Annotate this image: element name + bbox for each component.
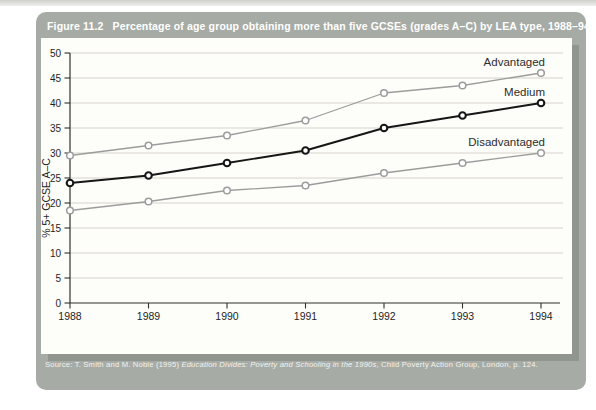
y-tick-label: 30: [50, 148, 62, 159]
data-point-advantaged: [67, 152, 74, 159]
x-tick-label: 1988: [58, 310, 82, 322]
y-tick-label: 0: [55, 298, 61, 309]
series-label-medium: Medium: [504, 86, 545, 98]
data-point-disadvantaged: [538, 150, 545, 157]
x-tick-label: 1993: [451, 310, 475, 322]
y-tick-label: 5: [55, 273, 61, 284]
data-point-disadvantaged: [302, 182, 309, 189]
chart-svg: 0510152025303540455019881989199019911992…: [41, 38, 572, 354]
data-point-advantaged: [459, 82, 466, 89]
data-point-disadvantaged: [459, 160, 466, 167]
figure-card: Figure 11.2Percentage of age group obtai…: [36, 12, 586, 390]
data-point-medium: [224, 160, 231, 167]
data-point-disadvantaged: [67, 207, 74, 214]
source-title: Education Divides: Poverty and Schooling…: [181, 360, 376, 369]
y-tick-label: 45: [50, 73, 62, 84]
data-point-advantaged: [381, 90, 388, 97]
data-point-medium: [538, 100, 545, 107]
figure-number: Figure 11.2: [47, 20, 104, 32]
chart-panel: 0510152025303540455019881989199019911992…: [41, 38, 572, 354]
y-axis-label: % 5+ GCSE A–C: [41, 158, 52, 238]
data-point-advantaged: [302, 117, 309, 124]
y-tick-label: 50: [50, 48, 62, 59]
data-point-disadvantaged: [145, 198, 152, 205]
data-point-disadvantaged: [381, 170, 388, 177]
x-tick-label: 1989: [137, 310, 161, 322]
data-point-medium: [302, 147, 309, 154]
y-tick-label: 35: [50, 123, 62, 134]
figure-caption: Percentage of age group obtaining more t…: [113, 20, 590, 32]
x-tick-label: 1991: [294, 310, 318, 322]
series-label-advantaged: Advantaged: [484, 56, 545, 68]
page-top-edge: [0, 0, 596, 6]
data-point-advantaged: [538, 70, 545, 77]
data-point-advantaged: [224, 132, 231, 139]
y-tick-label: 10: [50, 248, 62, 259]
y-tick-label: 40: [50, 98, 62, 109]
data-point-disadvantaged: [224, 187, 231, 194]
data-point-medium: [145, 172, 152, 179]
x-tick-label: 1994: [529, 310, 553, 322]
x-tick-label: 1992: [372, 310, 396, 322]
data-point-medium: [381, 125, 388, 132]
source-line: Source: T. Smith and M. Noble (1995) Edu…: [45, 360, 576, 370]
x-tick-label: 1990: [215, 310, 239, 322]
source-prefix: Source: T. Smith and M. Noble (1995): [45, 360, 181, 369]
data-point-advantaged: [145, 142, 152, 149]
series-label-disadvantaged: Disadvantaged: [468, 136, 545, 148]
data-point-medium: [459, 112, 466, 119]
data-point-medium: [67, 180, 74, 187]
source-suffix: , Child Poverty Action Group, London, p.…: [377, 360, 538, 369]
figure-title: Figure 11.2Percentage of age group obtai…: [47, 19, 574, 33]
